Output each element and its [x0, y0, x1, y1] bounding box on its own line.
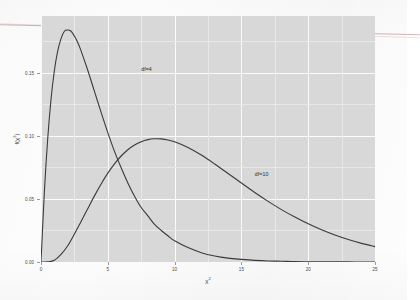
x-axis-title: χ2: [205, 278, 210, 284]
x-tick-mark: [375, 262, 376, 265]
x-tick-mark: [108, 262, 109, 265]
plot-panel: df=4 df=10: [41, 16, 375, 262]
x-tick-label: 0: [40, 267, 43, 272]
x-tick-mark: [241, 262, 242, 265]
x-tick-mark: [308, 262, 309, 265]
x-tick-label: 20: [306, 267, 311, 272]
annotation-df-10: df=10: [255, 171, 269, 177]
x-tick-label: 25: [372, 267, 377, 272]
x-tick-label: 5: [107, 267, 110, 272]
x-tick-mark: [41, 262, 42, 265]
annotation-df-4: df=4: [141, 66, 152, 72]
y-tick-mark: [37, 262, 40, 263]
x-tick-label: 10: [172, 267, 177, 272]
y-tick-mark: [37, 136, 40, 137]
y-axis-title: f(χ2): [14, 133, 20, 144]
x-tick-mark: [175, 262, 176, 265]
curve-df-4: [41, 30, 375, 262]
x-tick-label: 15: [239, 267, 244, 272]
y-tick-mark: [37, 73, 40, 74]
y-tick-label: 0.15: [25, 70, 34, 75]
curve-df-10: [41, 139, 375, 262]
y-tick-label: 0.05: [25, 196, 34, 201]
density-curves: [41, 16, 375, 262]
y-tick-mark: [37, 199, 40, 200]
y-tick-label: 0.10: [25, 133, 34, 138]
y-tick-label: 0.00: [25, 260, 34, 265]
